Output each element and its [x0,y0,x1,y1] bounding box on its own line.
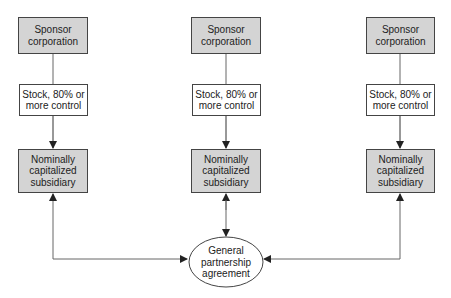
sponsor-label-1: Sponsor corporation [19,24,87,47]
stock-label-2: Stock, 80% or more control [193,89,260,112]
subsidiary-box-2: Nominally capitalized subsidiary [191,149,261,193]
stock-control-box-2: Stock, 80% or more control [192,84,261,116]
sponsor-corporation-box-2: Sponsor corporation [191,17,261,54]
sponsor-label-2: Sponsor corporation [192,24,260,47]
sponsor-corporation-box-3: Sponsor corporation [366,17,435,54]
agreement-label: General partnership agreement [189,245,263,280]
subsidiary-label-1: Nominally capitalized subsidiary [23,154,83,189]
stock-label-1: Stock, 80% or more control [20,89,87,112]
stock-control-box-3: Stock, 80% or more control [366,84,435,116]
sponsor-corporation-box-1: Sponsor corporation [18,17,88,54]
sponsor-label-3: Sponsor corporation [367,24,434,47]
subsidiary-label-2: Nominally capitalized subsidiary [196,154,256,189]
subsidiary-box-3: Nominally capitalized subsidiary [366,149,435,193]
stock-control-box-1: Stock, 80% or more control [19,84,88,116]
subsidiary-box-1: Nominally capitalized subsidiary [18,149,88,193]
stock-label-3: Stock, 80% or more control [367,89,434,112]
subsidiary-label-3: Nominally capitalized subsidiary [371,154,431,189]
